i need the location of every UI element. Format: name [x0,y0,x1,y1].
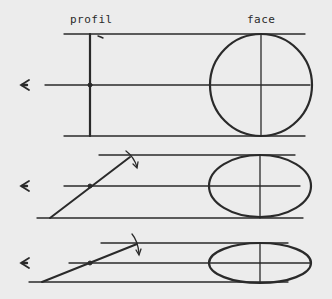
panel-upright [21,34,312,136]
eye-viewpoint-icon [21,181,29,191]
diagram-drawing [0,0,332,299]
pivot-dot [88,83,92,87]
perspective-diagram: profil face [0,0,332,299]
eye-viewpoint-icon [21,80,29,90]
eye-viewpoint-icon [21,258,29,268]
pivot-dot [88,261,92,265]
panel-tilted [21,151,311,218]
small-tick-mark [98,36,103,38]
pivot-dot [88,184,92,188]
panel-more-tilted [21,234,311,283]
